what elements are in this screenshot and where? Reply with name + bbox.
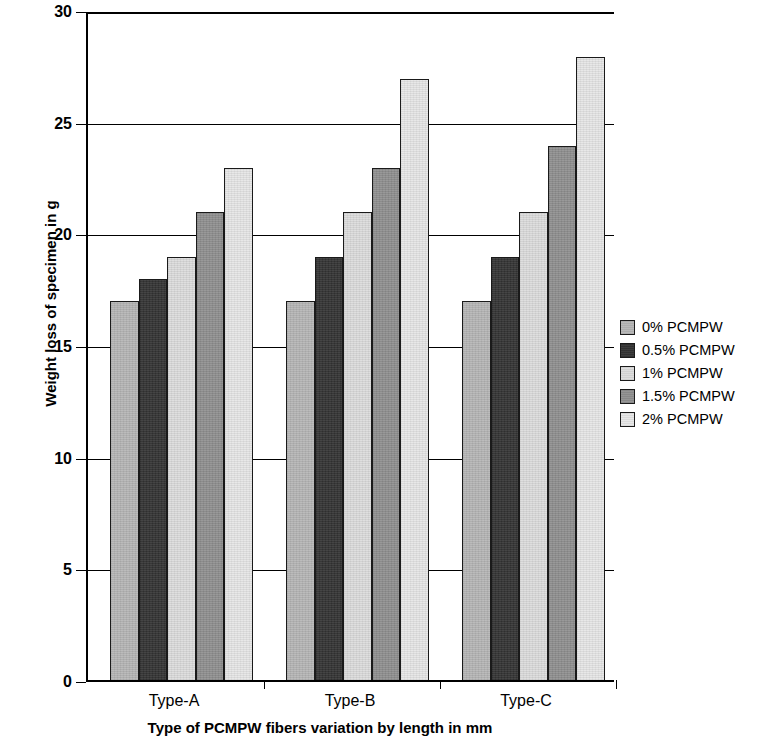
y-axis-tick-10: [76, 459, 86, 460]
x-axis-category-label: Type-C: [438, 692, 614, 710]
y-axis-tick-20: [76, 235, 86, 236]
x-axis-tick: [440, 680, 441, 689]
bar: [196, 212, 225, 680]
plot-area: 051015202530: [86, 12, 614, 682]
x-axis-category-label: Type-B: [262, 692, 438, 710]
bar: [315, 257, 344, 680]
bar: [286, 301, 315, 680]
bar-group-type-c: [462, 12, 605, 680]
legend-swatch-icon: [620, 366, 635, 381]
bar: [576, 57, 605, 680]
bar: [519, 212, 548, 680]
y-axis-tick-30: [76, 12, 86, 13]
legend-label: 1% PCMPW: [642, 366, 723, 381]
bar-groups: [88, 12, 614, 680]
legend-item: 1.5% PCMPW: [620, 385, 735, 408]
x-axis-category-label: Type-A: [86, 692, 262, 710]
legend-item: 0% PCMPW: [620, 316, 735, 339]
legend-label: 0% PCMPW: [642, 320, 723, 335]
bar: [139, 279, 168, 680]
legend-label: 1.5% PCMPW: [642, 389, 735, 404]
x-axis-title: Type of PCMPW fibers variation by length…: [0, 719, 640, 736]
bar-group-type-a: [110, 12, 253, 680]
bar: [462, 301, 491, 680]
bar-group-type-b: [286, 12, 429, 680]
x-axis-tick: [616, 680, 617, 689]
y-axis-tick-label: 30: [54, 3, 72, 21]
bar: [400, 79, 429, 680]
bar: [548, 146, 577, 680]
y-axis-title: Weight loss of specimen in g: [42, 104, 59, 504]
legend-label: 0.5% PCMPW: [642, 343, 735, 358]
bar: [167, 257, 196, 680]
y-axis-tick-label: 25: [54, 115, 72, 133]
bar: [343, 212, 372, 680]
y-axis-tick-label: 0: [63, 673, 72, 691]
bar-chart: Weight loss of specimen in g 05101520253…: [0, 0, 759, 744]
legend-swatch-icon: [620, 320, 635, 335]
y-axis-tick-0: [76, 682, 86, 683]
legend-swatch-icon: [620, 343, 635, 358]
bar: [491, 257, 520, 680]
legend-item: 1% PCMPW: [620, 362, 735, 385]
x-axis-tick: [264, 680, 265, 689]
bar: [110, 301, 139, 680]
y-axis-tick-25: [76, 124, 86, 125]
y-axis-tick-label: 10: [54, 450, 72, 468]
bar: [372, 168, 401, 680]
legend-swatch-icon: [620, 389, 635, 404]
y-axis-tick-label: 20: [54, 226, 72, 244]
legend: 0% PCMPW0.5% PCMPW1% PCMPW1.5% PCMPW2% P…: [620, 316, 735, 431]
y-axis-tick-label: 5: [63, 561, 72, 579]
y-axis-tick-label: 15: [54, 338, 72, 356]
legend-item: 0.5% PCMPW: [620, 339, 735, 362]
legend-item: 2% PCMPW: [620, 408, 735, 431]
y-axis-tick-5: [76, 570, 86, 571]
y-axis-tick-15: [76, 347, 86, 348]
legend-swatch-icon: [620, 412, 635, 427]
bar: [224, 168, 253, 680]
legend-label: 2% PCMPW: [642, 412, 723, 427]
